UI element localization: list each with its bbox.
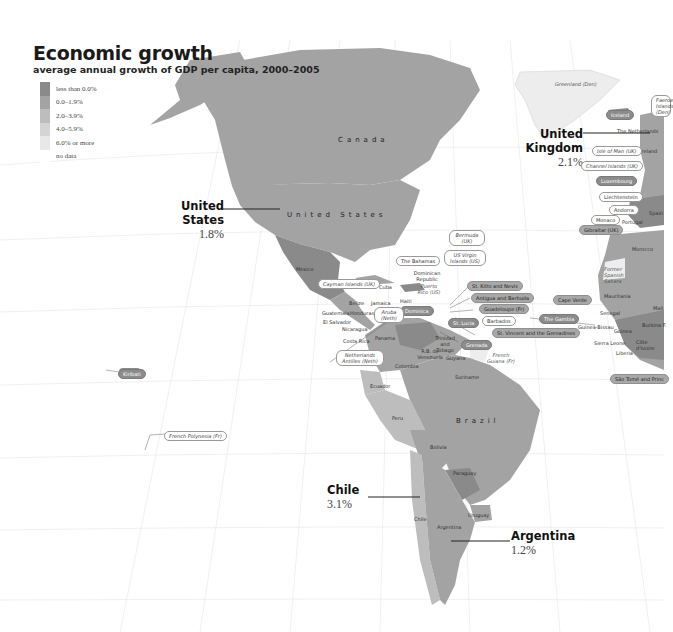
legend-label: 6.0% or more: [56, 139, 94, 147]
callout-grenada: Grenada: [461, 340, 492, 350]
label-costa-rica: Costa Rica: [343, 338, 369, 344]
label-guinea-bissau: Guinea-Bissau: [578, 324, 614, 330]
label-trinidad: Trinidad and Tobago: [432, 335, 458, 353]
legend-item: 6.0% or more: [40, 136, 97, 150]
highlight-name: United States: [140, 199, 224, 227]
united-states-shape: [232, 180, 420, 262]
callout-isle-of-man: Isle of Man (UK): [592, 146, 642, 156]
label-western-sahara: Former Spanish Sahara: [604, 266, 628, 284]
label-faeroe: Faeroe Islands (Den): [651, 95, 671, 117]
callout-channel-islands: Channel Islands (UK): [581, 161, 643, 171]
legend-swatch: [40, 82, 50, 96]
callout-bermuda: Bermuda (UK): [449, 230, 485, 246]
label-spain: Spain: [649, 210, 663, 216]
label-cuba: Cuba: [379, 284, 392, 290]
label-peru: Peru: [392, 415, 403, 421]
legend-swatch: [40, 136, 50, 150]
callout-gibraltar: Gibraltar (UK): [579, 225, 623, 235]
callout-sao-tome: São Tomé and Princ: [610, 374, 669, 384]
label-suriname: Suriname: [455, 374, 479, 380]
label-chile: Chile: [414, 516, 427, 522]
label-guatemala: Guatemala: [322, 310, 350, 316]
highlight-value: 1.2%: [511, 543, 575, 558]
label-bolivia: Bolivia: [430, 444, 447, 450]
label-morocco: Morocco: [632, 246, 653, 252]
legend-item: 2.0–3.9%: [40, 109, 97, 123]
label-senegal: Senegal: [600, 310, 620, 316]
legend-item: less than 0.0%: [40, 82, 97, 96]
legend-label: 0.0–1.9%: [56, 98, 83, 106]
callout-dominica: Dominica: [400, 306, 434, 316]
legend-swatch: [40, 96, 50, 110]
callout-cape-verde: Cape Verde: [553, 295, 592, 305]
callout-guadeloupe: Guadeloupe (Fr): [479, 304, 529, 314]
map-title: Economic growth: [33, 42, 213, 64]
highlight-value: 2.1%: [480, 155, 583, 170]
highlight-name: United Kingdom: [480, 127, 583, 155]
highlight-argentina: Argentina 1.2%: [511, 529, 575, 558]
legend-item: 0.0–1.9%: [40, 96, 97, 110]
callout-french-polynesia: French Polynesia (Fr): [164, 431, 227, 441]
label-honduras: Honduras: [350, 310, 374, 316]
callout-cayman-islands: Cayman Islands (UK): [318, 279, 380, 289]
callout-monaco: Monaco: [591, 215, 620, 225]
highlight-name: Argentina: [511, 529, 575, 543]
label-canada: Canada: [338, 137, 389, 143]
label-haiti: Haiti: [400, 298, 412, 304]
label-belize: Belize: [349, 300, 364, 306]
label-uruguay: Uruguay: [468, 512, 489, 518]
label-mali: Mali: [653, 305, 663, 311]
callout-iceland: Iceland: [606, 110, 634, 120]
label-guyana: Guyana: [446, 355, 465, 361]
label-jamaica: Jamaica: [371, 300, 391, 306]
callout-liechtenstein: Liechtenstein: [599, 192, 643, 202]
highlight-chile: Chile 3.1%: [327, 483, 359, 512]
legend-swatch: [40, 123, 50, 137]
label-cote-divoire: Côte d'Ivoire: [636, 339, 664, 351]
callout-st-lucia: St. Lucia: [448, 318, 479, 328]
label-brazil: Brazil: [456, 418, 500, 424]
label-puerto-rico: Puerto Rico (US): [417, 283, 441, 295]
legend-label: no data: [56, 152, 76, 160]
label-paraguay: Paraguay: [453, 470, 476, 476]
callout-kiribati: Kiribati: [118, 369, 146, 379]
label-french-guiana: French Guiana (Fr): [483, 352, 519, 364]
label-netherlands: The Netherlands: [617, 128, 658, 134]
callout-st-kitts-nevis: St. Kitts and Nevis: [467, 281, 523, 291]
highlight-value: 1.8%: [140, 227, 224, 242]
legend-swatch: [40, 150, 50, 164]
highlight-united-kingdom: United Kingdom 2.1%: [480, 127, 583, 170]
label-mauritania: Mauritania: [604, 293, 631, 299]
highlight-united-states: United States 1.8%: [140, 199, 224, 242]
callout-antigua-barbuda: Antigua and Barbuda: [471, 293, 534, 303]
label-ireland: Ireland: [640, 148, 657, 154]
legend-label: 2.0–3.9%: [56, 112, 83, 120]
label-el-salvador: El Salvador: [323, 319, 351, 325]
legend-label: less than 0.0%: [56, 85, 97, 93]
label-colombia: Colombia: [395, 363, 419, 369]
callout-luxembourg: Luxembourg: [596, 176, 637, 186]
label-liberia: Liberia: [616, 350, 633, 356]
legend-item: no data: [40, 150, 97, 164]
label-panama: Panama: [375, 335, 395, 341]
callout-bahamas: The Bahamas: [396, 256, 440, 266]
legend-label: 4.0–5.9%: [56, 125, 83, 133]
callout-netherlands-antilles: Netherlands Antilles (Neth): [336, 350, 384, 366]
label-argentina: Argentina: [437, 524, 461, 530]
label-ecuador: Ecuador: [370, 383, 390, 389]
label-greenland: Greenland (Den): [555, 81, 597, 87]
legend-swatch: [40, 109, 50, 123]
legend-item: 4.0–5.9%: [40, 123, 97, 137]
highlight-name: Chile: [327, 483, 359, 497]
label-guinea: Guinea: [614, 328, 632, 334]
label-dominican-republic: Dominican Republic: [407, 270, 447, 282]
callout-st-vincent: St. Vincent and the Grenadines: [492, 328, 580, 338]
callout-andorra: Andorra: [609, 205, 639, 215]
label-mexico: Mexico: [296, 266, 313, 272]
callout-us-virgin-islands: US Virgin Islands (US): [444, 250, 486, 266]
callout-the-gambia: The Gambia: [539, 314, 579, 324]
legend: less than 0.0% 0.0–1.9% 2.0–3.9% 4.0–5.9…: [40, 82, 97, 163]
callout-aruba: Aruba (Neth): [374, 307, 404, 323]
highlight-value: 3.1%: [327, 497, 359, 512]
callout-barbados: Barbados: [482, 316, 516, 326]
